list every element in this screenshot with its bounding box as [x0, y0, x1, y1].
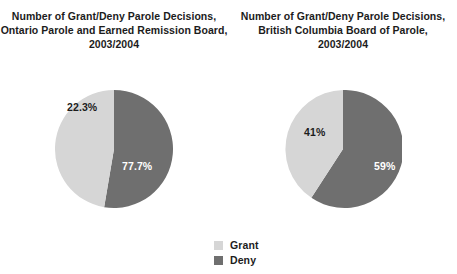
- chart-title-line-2: British Columbia Board of Parole,: [229, 23, 457, 37]
- pie-label-deny-ontario: 77.7%: [122, 160, 152, 172]
- legend-item-deny: Deny: [214, 253, 304, 268]
- legend-label-grant: Grant: [230, 240, 259, 251]
- chart-title-british-columbia: Number of Grant/Deny Parole Decisions, B…: [229, 9, 457, 51]
- chart-legend: Grant Deny: [214, 238, 304, 268]
- chart-panel-british-columbia: Number of Grant/Deny Parole Decisions, B…: [229, 0, 457, 230]
- pie-label-grant-ontario: 22.3%: [67, 101, 97, 113]
- legend-swatch-grant-icon: [214, 241, 223, 250]
- chart-panel-ontario: Number of Grant/Deny Parole Decisions, O…: [0, 0, 228, 230]
- chart-title-ontario: Number of Grant/Deny Parole Decisions, O…: [0, 9, 228, 51]
- chart-title-line-3: 2003/2004: [0, 37, 228, 51]
- legend-label-deny: Deny: [230, 255, 256, 266]
- chart-title-line-1: Number of Grant/Deny Parole Decisions,: [229, 9, 457, 23]
- chart-title-line-1: Number of Grant/Deny Parole Decisions,: [0, 9, 228, 23]
- pie-british-columbia: [284, 90, 402, 208]
- pie-chart-figure: Number of Grant/Deny Parole Decisions, O…: [0, 0, 457, 274]
- pie-slice-deny-ontario: [104, 90, 173, 208]
- chart-title-line-3: 2003/2004: [229, 37, 457, 51]
- chart-title-line-2: Ontario Parole and Earned Remission Boar…: [0, 23, 228, 37]
- pie-label-grant-bc: 41%: [304, 126, 325, 138]
- pie-label-deny-bc: 59%: [374, 160, 395, 172]
- legend-swatch-deny-icon: [214, 256, 223, 265]
- pie-bc-svg: [284, 90, 402, 208]
- legend-item-grant: Grant: [214, 238, 304, 253]
